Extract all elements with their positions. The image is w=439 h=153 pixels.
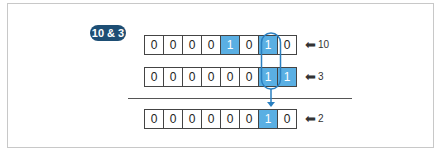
and-connector-overlay <box>0 0 439 153</box>
column-highlight-capsule <box>262 33 281 89</box>
